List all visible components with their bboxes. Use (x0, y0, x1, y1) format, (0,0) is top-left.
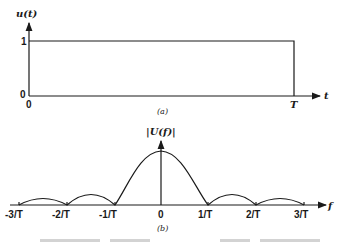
tick-pos2: 2/T (246, 209, 260, 220)
panel-a-pulse-plot: u(t) 1 0 0 T t (a) (16, 8, 329, 116)
x-tick-0: 0 (26, 99, 32, 110)
tick-neg3: -3/T (5, 209, 23, 220)
pulse-curve (29, 41, 294, 96)
xlabel-f: f (327, 200, 334, 211)
ylabel-u-t: u(t) (16, 8, 38, 19)
tick-0: 0 (158, 209, 164, 220)
xlabel-t: t (324, 90, 329, 101)
tick-neg1: -1/T (99, 209, 117, 220)
caption-a: (a) (157, 107, 168, 116)
caption-b: (b) (157, 224, 168, 233)
tick-pos1: 1/T (198, 209, 212, 220)
panel-b-spectrum-plot: |U(f)| f -3/T -2/T -1/T 0 1/T 2/T 3/T (b… (5, 126, 334, 233)
ylabel-abs-U-f: |U(f)| (146, 126, 176, 138)
tick-neg2: -2/T (52, 209, 70, 220)
tick-pos3: 3/T (294, 209, 308, 220)
x-tick-T: T (290, 99, 299, 110)
x-tick-labels-b: -3/T -2/T -1/T 0 1/T 2/T 3/T (5, 209, 308, 220)
figure: u(t) 1 0 0 T t (a) |U(f)| f -3/T -2/T -1… (0, 0, 341, 242)
y-tick-1: 1 (21, 36, 27, 47)
